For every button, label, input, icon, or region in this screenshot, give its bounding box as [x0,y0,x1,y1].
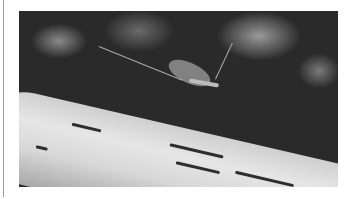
mayfly-wing [165,54,214,91]
photo [19,11,338,187]
mayfly-antenna [215,43,233,80]
birch-branch [19,83,338,187]
left-border-line [3,0,4,197]
